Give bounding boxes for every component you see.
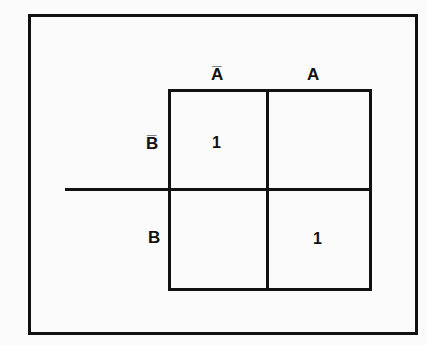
- column-label-not-a: A̅: [211, 66, 223, 83]
- row-label-b: B: [148, 229, 160, 246]
- column-label-a: A: [307, 66, 319, 83]
- row-divider: [65, 188, 369, 191]
- cell-a-b: 1: [313, 230, 322, 248]
- cell-not-a-not-b: 1: [212, 134, 221, 152]
- row-label-not-b: B̅: [146, 135, 158, 152]
